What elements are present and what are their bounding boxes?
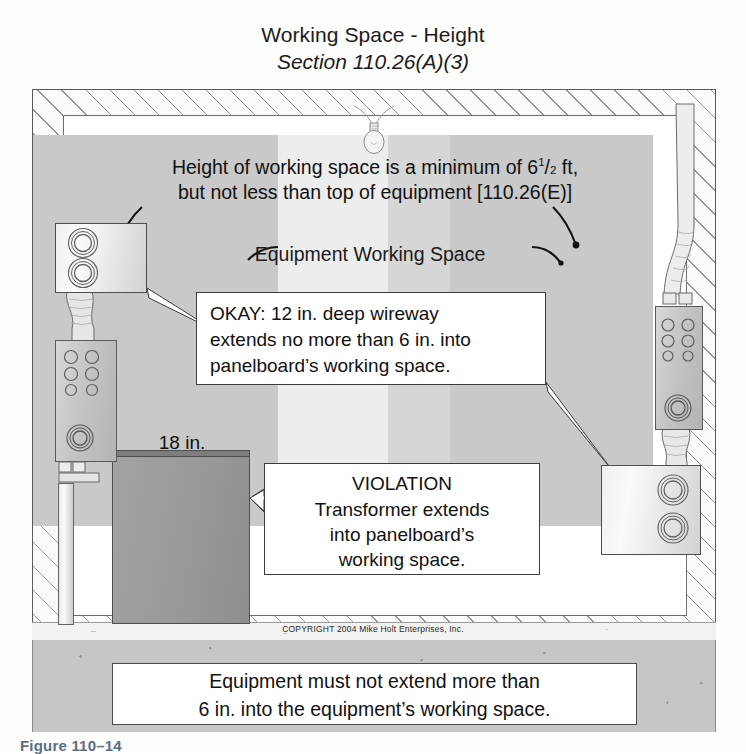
violation-callout: VIOLATION Transformer extends into panel…	[264, 463, 540, 575]
header-note-line2: but not less than top of equipment [110.…	[178, 181, 572, 203]
violation-line-3: working space.	[339, 549, 466, 570]
violation-line-1: Transformer extends	[315, 499, 490, 520]
left-lower-conduit	[58, 483, 74, 625]
left-bottom-fitting	[58, 461, 102, 483]
bottom-note-line-1: Equipment must not extend more than	[209, 670, 540, 692]
title-line-2: Section 110.26(A)(3)	[0, 48, 746, 75]
light-bulb-icon	[352, 104, 396, 156]
title-line-1: Working Space - Height	[0, 22, 746, 48]
okay-line-3: panelboard’s working space.	[210, 355, 450, 376]
header-note: Height of working space is a minimum of …	[60, 155, 690, 205]
violation-title: VIOLATION	[275, 471, 529, 496]
equipment-working-space-label: Equipment Working Space	[150, 243, 590, 266]
dimension-label-18in: 18 in.	[112, 432, 252, 454]
left-flex-conduit	[62, 291, 102, 341]
figure-title: Working Space - Height Section 110.26(A)…	[0, 22, 746, 75]
left-wireway-box	[55, 223, 147, 293]
bottom-note-line-2: 6 in. into the equipment’s working space…	[199, 698, 551, 720]
transformer-block	[112, 456, 250, 624]
header-note-line1-post: ft,	[556, 156, 578, 178]
copyright-notice: COPYRIGHT 2004 Mike Holt Enterprises, In…	[0, 624, 746, 634]
right-conduit-fitting	[662, 292, 696, 306]
right-wireway-box	[601, 465, 701, 555]
fraction-numerator: 1	[538, 156, 544, 168]
header-note-line1-pre: Height of working space is a minimum of …	[172, 156, 538, 178]
left-panelboard	[55, 340, 117, 462]
right-flex-conduit	[659, 428, 695, 470]
violation-line-2: into panelboard’s	[330, 524, 474, 545]
okay-callout: OKAY: 12 in. deep wireway extends no mor…	[196, 292, 546, 385]
figure-caption: Figure 110–14	[20, 737, 122, 754]
bottom-note: Equipment must not extend more than 6 in…	[112, 663, 637, 725]
okay-line-1: OKAY: 12 in. deep wireway	[210, 303, 439, 324]
right-panelboard	[655, 306, 703, 430]
okay-line-2: extends no more than 6 in. into	[210, 329, 471, 350]
